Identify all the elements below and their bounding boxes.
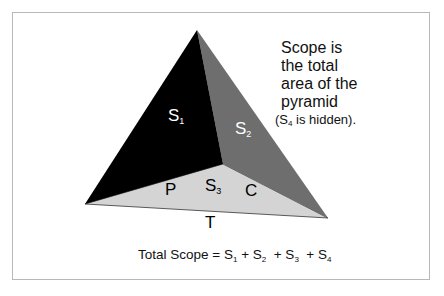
label-c: C — [245, 182, 257, 199]
note-line-1: Scope is — [281, 39, 358, 57]
label-s1: S1 — [168, 107, 184, 126]
note-line-4: pyramid — [281, 93, 358, 111]
note-hidden-line: (S4 is hidden). — [275, 111, 358, 133]
label-p: P — [165, 181, 176, 198]
note-line-2: the total — [281, 57, 358, 75]
note-line-3: area of the — [281, 75, 358, 93]
label-t: T — [205, 214, 215, 231]
scope-note: Scope is the total area of the pyramid (… — [281, 39, 358, 133]
label-s3: S3 — [205, 177, 221, 196]
total-scope-formula: Total Scope = S1 + S2 + S3 + S4 — [138, 247, 331, 264]
label-s2: S2 — [235, 120, 251, 139]
